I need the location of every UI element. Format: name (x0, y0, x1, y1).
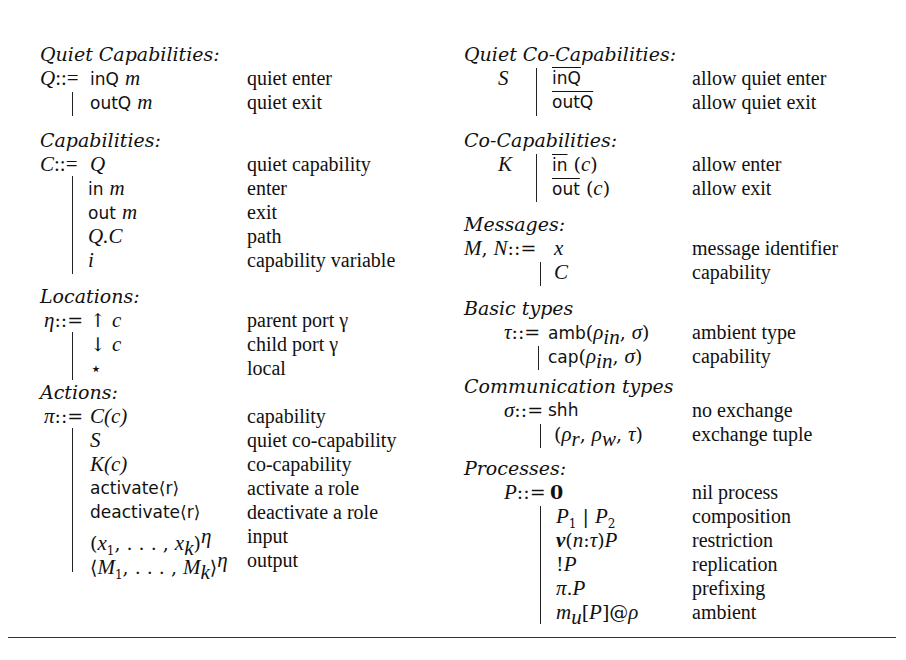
production: 0 (550, 480, 563, 504)
production: C(c) (90, 404, 127, 428)
production: i (88, 248, 94, 272)
description: allow quiet exit (692, 90, 816, 114)
production: in m (88, 176, 125, 201)
alternative-bar (540, 262, 541, 286)
production: out m (88, 200, 137, 225)
description: input (247, 524, 288, 548)
nonterminal-s: S (498, 66, 509, 90)
nonterminal-eta: η::= (44, 308, 83, 332)
nonterminal-p: P::= (504, 480, 546, 504)
nonterminal-pi: π::= (44, 404, 83, 428)
description: allow exit (692, 176, 771, 200)
description: quiet co-capability (247, 428, 396, 452)
heading-quiet-co-capabilities: Quiet Co-Capabilities: (464, 42, 676, 66)
description: capability variable (247, 248, 395, 272)
description: deactivate a role (247, 500, 378, 524)
alternative-bar (72, 428, 73, 572)
description: enter (247, 176, 287, 200)
description: nil process (692, 480, 778, 504)
alternative-bar (72, 176, 73, 274)
description: allow quiet enter (692, 66, 826, 90)
production: S (90, 428, 101, 452)
heading-processes: Processes: (464, 456, 566, 480)
alternative-bar (536, 68, 537, 116)
production: ↓ c (90, 332, 121, 356)
production: π.P (556, 576, 585, 600)
production: in (c) (552, 152, 598, 177)
production: ↑ c (90, 308, 121, 332)
heading-quiet-capabilities: Quiet Capabilities: (40, 42, 220, 66)
description: restriction (692, 528, 773, 552)
description: allow enter (692, 152, 781, 176)
description: co-capability (247, 452, 351, 476)
alternative-bar (540, 506, 541, 624)
description: capability (247, 404, 326, 428)
production: K(c) (90, 452, 127, 476)
production: C (554, 260, 568, 284)
heading-messages: Messages: (464, 212, 565, 236)
description: replication (692, 552, 778, 576)
description: exit (247, 200, 277, 224)
nonterminal-k: K (498, 152, 512, 176)
production: deactivate⟨r⟩ (90, 500, 200, 524)
alternative-bar (72, 332, 73, 380)
description: composition (692, 504, 791, 528)
heading-capabilities: Capabilities: (40, 128, 161, 152)
alternative-bar (72, 92, 73, 116)
production: shh (548, 398, 578, 422)
heading-locations: Locations: (40, 284, 140, 308)
nonterminal-c: C::= (40, 152, 78, 176)
description: quiet enter (247, 66, 332, 90)
description: child port γ (247, 332, 338, 356)
description: output (247, 548, 298, 572)
production: activate⟨r⟩ (90, 476, 179, 500)
production: ⟨M1, . . . , Mk⟩η (90, 548, 228, 587)
production: outQ m (90, 90, 152, 115)
description: capability (692, 260, 771, 284)
alternative-bar (536, 154, 537, 202)
production: (ρr, ρw, τ) (554, 422, 643, 451)
heading-communication-types: Communication types (464, 374, 673, 398)
heading-actions: Actions: (40, 380, 118, 404)
description: parent port γ (247, 308, 348, 332)
nonterminal-q: Q::= (40, 66, 79, 90)
description: activate a role (247, 476, 359, 500)
production: !P (556, 552, 576, 576)
description: no exchange (692, 398, 793, 422)
alternative-bar (540, 424, 541, 448)
description: prefixing (692, 576, 765, 600)
alternative-bar (538, 346, 539, 370)
description: message identifier (692, 236, 838, 260)
description: quiet capability (247, 152, 371, 176)
production: mu[P]@ρ (556, 600, 638, 629)
description: exchange tuple (692, 422, 813, 446)
nonterminal-m-n: M, N::= (464, 236, 536, 260)
production: out (c) (552, 176, 610, 201)
description: local (247, 356, 286, 380)
description: capability (692, 344, 771, 368)
production: outQ (552, 90, 593, 114)
horizontal-rule (8, 637, 896, 638)
production: Q.C (88, 224, 122, 248)
description: quiet exit (247, 90, 322, 114)
production: Q (90, 152, 105, 176)
production: cap(ρin, σ) (548, 344, 642, 373)
production: ν(n:τ)P (556, 528, 617, 552)
production: inQ (552, 66, 581, 90)
description: path (247, 224, 281, 248)
heading-basic-types: Basic types (464, 296, 573, 320)
description: ambient (692, 600, 756, 624)
production: x (554, 236, 563, 260)
nonterminal-sigma: σ::= (504, 398, 543, 422)
description: ambient type (692, 320, 796, 344)
production: inQ m (90, 66, 140, 91)
star-icon: ⋆ (90, 356, 102, 380)
nonterminal-tau: τ::= (504, 320, 540, 344)
heading-co-capabilities: Co-Capabilities: (464, 128, 617, 152)
